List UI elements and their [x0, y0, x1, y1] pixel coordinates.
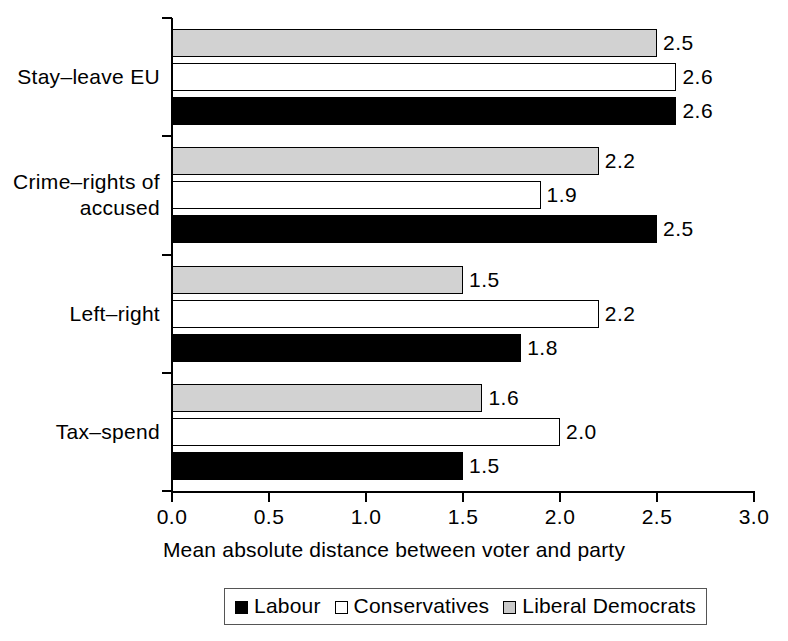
bar-conservatives	[172, 418, 560, 446]
bar-labour	[172, 452, 463, 480]
y-axis-tick	[162, 490, 172, 492]
bar-value-label: 1.6	[488, 384, 519, 412]
x-axis-tick-label: 0.0	[142, 505, 202, 529]
x-axis-tick	[365, 493, 367, 502]
bar-chart: 0.00.51.01.52.02.53.0 Stay–leave EUCrime…	[0, 0, 788, 641]
legend-swatch-icon-labour	[235, 601, 248, 614]
y-axis-tick	[162, 17, 172, 19]
bar-value-label: 2.0	[566, 418, 597, 446]
legend-label-conservatives: Conservatives	[354, 594, 490, 618]
x-axis-tick-label: 2.5	[627, 505, 687, 529]
category-label-line: Crime–rights of	[0, 169, 160, 195]
bar-libdems	[172, 266, 463, 294]
category-label-line: Stay–leave EU	[0, 64, 160, 90]
category-label: Stay–leave EU	[0, 64, 160, 90]
y-axis-tick	[162, 254, 172, 256]
bar-value-label: 2.2	[605, 300, 636, 328]
category-label-line: Tax–spend	[0, 419, 160, 445]
bar-conservatives	[172, 300, 599, 328]
bar-value-label: 1.8	[527, 334, 558, 362]
bar-value-label: 1.5	[469, 266, 500, 294]
legend-label-liberal-democrats: Liberal Democrats	[522, 594, 696, 618]
x-axis-tick	[268, 493, 270, 502]
bar-value-label: 2.5	[663, 215, 694, 243]
x-axis-tick	[559, 493, 561, 502]
chart-legend: Labour Conservatives Liberal Democrats	[224, 588, 707, 625]
bar-value-label: 2.2	[605, 147, 636, 175]
bar-labour	[172, 97, 676, 125]
bar-conservatives	[172, 181, 541, 209]
bar-conservatives	[172, 63, 676, 91]
x-axis-tick-label: 2.0	[530, 505, 590, 529]
category-label: Tax–spend	[0, 419, 160, 445]
bar-value-label: 2.6	[682, 97, 713, 125]
legend-swatch-icon-liberal-democrats	[503, 601, 516, 614]
x-axis-tick	[462, 493, 464, 502]
x-axis-tick-label: 3.0	[724, 505, 784, 529]
legend-item-libdems: Liberal Democrats	[503, 594, 696, 618]
bar-labour	[172, 334, 521, 362]
x-axis-tick	[753, 493, 755, 502]
category-label-line: Left–right	[0, 301, 160, 327]
category-label: Left–right	[0, 301, 160, 327]
bar-libdems	[172, 147, 599, 175]
x-axis-tick-label: 1.5	[433, 505, 493, 529]
bar-labour	[172, 215, 657, 243]
x-axis-tick-label: 1.0	[336, 505, 396, 529]
x-axis-tick-label: 0.5	[239, 505, 299, 529]
y-axis-tick	[162, 135, 172, 137]
x-axis-tick	[656, 493, 658, 502]
bar-value-label: 2.5	[663, 29, 694, 57]
category-label-line: accused	[0, 195, 160, 221]
y-axis-tick	[162, 372, 172, 374]
category-label: Crime–rights ofaccused	[0, 169, 160, 221]
x-axis-tick	[171, 493, 173, 502]
legend-label-labour: Labour	[254, 594, 321, 618]
bar-value-label: 2.6	[682, 63, 713, 91]
bar-value-label: 1.9	[547, 181, 578, 209]
legend-item-labour: Labour	[235, 594, 321, 618]
x-axis-title: Mean absolute distance between voter and…	[0, 538, 788, 562]
bar-value-label: 1.5	[469, 452, 500, 480]
legend-item-conservatives: Conservatives	[335, 594, 490, 618]
legend-swatch-icon-conservatives	[335, 601, 348, 614]
bar-libdems	[172, 384, 482, 412]
bar-libdems	[172, 29, 657, 57]
